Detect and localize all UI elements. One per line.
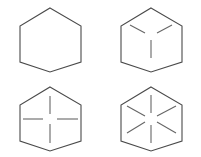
- hexagon-plain-svg: [0, 0, 100, 78]
- hexagon-cell-top-left: [0, 0, 100, 78]
- hexagon-three-ray-svg: [101, 0, 201, 78]
- hexagon-cell-bottom-left: [0, 79, 100, 157]
- hexagon-pattern-figure: [0, 0, 201, 157]
- hexagon-cell-bottom-right: [101, 79, 201, 157]
- hexagon-cell-top-right: [101, 0, 201, 78]
- hexagon-cross-svg: [0, 79, 100, 157]
- hexagon-outline: [20, 8, 81, 72]
- hexagon-asterisk-svg: [101, 79, 201, 157]
